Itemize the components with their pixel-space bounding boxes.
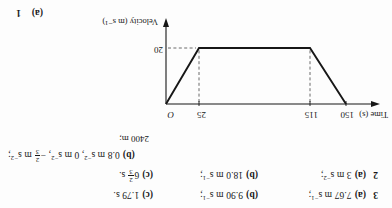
q2a-exponent: −2 bbox=[323, 175, 330, 182]
fraction-numerator: 2 bbox=[128, 176, 134, 183]
part-label-b: (b) bbox=[246, 190, 258, 200]
q3b-exponent: −1 bbox=[203, 195, 210, 202]
part-label-b: (b) bbox=[123, 150, 135, 160]
answer-line-q1b: (b)0.8 m s−2, 0 m s−2, −23 m s−2; bbox=[0, 148, 392, 163]
y-axis-label: Velocity (m s⁻¹) bbox=[102, 17, 158, 27]
q1b-value-1: 0.8 m s bbox=[91, 150, 119, 160]
q1b-terminator: ; bbox=[8, 150, 11, 160]
question-number-2: 2 bbox=[366, 170, 378, 180]
q2-part-a: (a)3 m s−2; bbox=[258, 170, 366, 182]
x-axis-label: Time (s) bbox=[359, 110, 388, 120]
fraction-denominator: 3 bbox=[128, 168, 134, 176]
part-label-b: (b) bbox=[246, 170, 258, 180]
answer-line-q3: 3 (a)7.67 m s−1; (b)9.90 m s−1; (c)1.79 … bbox=[0, 190, 392, 202]
answer-q1-distance: 2400 m; bbox=[119, 134, 149, 144]
part-label-c: (c) bbox=[142, 170, 153, 180]
q2c-unit: s. bbox=[119, 170, 128, 180]
velocity-time-curve bbox=[166, 48, 346, 104]
q1b-exponent-1: −2 bbox=[84, 155, 91, 162]
q3b-value: 9.90 m s bbox=[210, 190, 243, 200]
fraction-two-thirds: 23 bbox=[35, 148, 41, 163]
q2b-terminator: ; bbox=[200, 170, 203, 180]
xtick-label-150: 150 bbox=[341, 110, 355, 120]
q1-part-a-label: (a) bbox=[32, 8, 43, 18]
q2-part-c: (c)623 s. bbox=[119, 168, 153, 183]
q1b-value-4: m s bbox=[18, 150, 34, 160]
ytick-label-20: 20 bbox=[154, 45, 163, 55]
q2a-terminator: ; bbox=[321, 170, 324, 180]
q2-part-b: (b)18.0 m s−1; bbox=[153, 170, 258, 182]
fraction-denominator: 3 bbox=[35, 148, 41, 156]
q3a-value: 7.67 m s bbox=[318, 190, 351, 200]
fraction-numerator: 2 bbox=[35, 156, 41, 163]
scanned-page: 3 (a)7.67 m s−1; (b)9.90 m s−1; (c)1.79 … bbox=[0, 0, 392, 208]
question-number-1: 1 bbox=[16, 8, 21, 18]
q3b-terminator: ; bbox=[200, 190, 203, 200]
q1-part-b: (b)0.8 m s−2, 0 m s−2, −23 m s−2; bbox=[8, 148, 135, 163]
xtick-label-115: 115 bbox=[305, 110, 318, 120]
answer-row: 2 (a)3 m s−2; (b)18.0 m s−1; (c)623 s. bbox=[0, 168, 392, 183]
q3-part-b: (b)9.90 m s−1; bbox=[153, 190, 258, 202]
q2c-integer: 6 bbox=[134, 170, 139, 180]
origin-label: O bbox=[168, 110, 175, 120]
q3-part-c: (c)1.79 s. bbox=[113, 190, 153, 200]
xtick-label-25: 25 bbox=[197, 110, 206, 120]
question-number-3: 3 bbox=[366, 190, 378, 200]
q3a-terminator: ; bbox=[308, 190, 311, 200]
answer-row: 3 (a)7.67 m s−1; (b)9.90 m s−1; (c)1.79 … bbox=[0, 190, 392, 202]
answer-row: (b)0.8 m s−2, 0 m s−2, −23 m s−2; bbox=[0, 148, 392, 163]
time-axis-arrowhead bbox=[371, 101, 380, 107]
q3c-value: 1.79 s. bbox=[113, 190, 139, 200]
q1b-value-3: , − bbox=[41, 150, 51, 160]
q2a-value: 3 m s bbox=[331, 170, 352, 180]
velocity-axis-arrowhead bbox=[163, 18, 169, 27]
q1b-value-2: , 0 m s bbox=[58, 150, 84, 160]
fraction-two-thirds: 23 bbox=[128, 168, 134, 183]
q2b-exponent: −1 bbox=[203, 175, 210, 182]
q3a-exponent: −1 bbox=[311, 195, 318, 202]
q1b-exponent-2: −2 bbox=[51, 155, 58, 162]
part-label-c: (c) bbox=[142, 190, 153, 200]
part-label-a: (a) bbox=[355, 190, 366, 200]
q3-part-a: (a)7.67 m s−1; bbox=[258, 190, 366, 202]
q1b-exponent-3: −2 bbox=[11, 155, 18, 162]
part-label-a: (a) bbox=[355, 170, 366, 180]
q2b-value: 18.0 m s bbox=[210, 170, 243, 180]
answer-line-q2: 2 (a)3 m s−2; (b)18.0 m s−1; (c)623 s. bbox=[0, 168, 392, 183]
